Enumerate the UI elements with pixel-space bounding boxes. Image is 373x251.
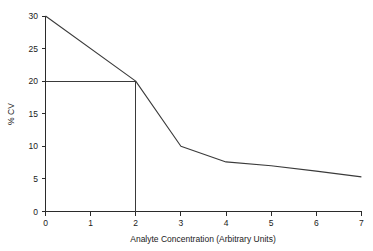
y-tick-label-25: 25 (29, 44, 39, 54)
x-tick-label-6: 6 (314, 218, 319, 228)
y-tick-label-0: 0 (33, 207, 38, 217)
y-tick-label-20: 20 (29, 76, 39, 86)
x-tick-label-7: 7 (359, 218, 364, 228)
y-axis-title: % CV (6, 103, 16, 125)
y-tick-label-15: 15 (29, 109, 39, 119)
x-tick-label-2: 2 (133, 218, 138, 228)
chart-figure: 0 5 10 15 20 25 30 0 1 2 3 4 5 6 7 Analy… (0, 0, 373, 251)
x-tick-label-5: 5 (269, 218, 274, 228)
y-tick-label-5: 5 (33, 174, 38, 184)
y-tick-label-30: 30 (29, 11, 39, 21)
chart-canvas: 0 5 10 15 20 25 30 0 1 2 3 4 5 6 7 Analy… (0, 0, 373, 251)
x-tick-label-0: 0 (43, 218, 48, 228)
x-tick-label-4: 4 (224, 218, 229, 228)
x-tick-label-1: 1 (88, 218, 93, 228)
y-tick-label-10: 10 (29, 141, 39, 151)
x-tick-label-3: 3 (179, 218, 184, 228)
chart-background (0, 0, 373, 251)
x-axis-title: Analyte Concentration (Arbitrary Units) (130, 234, 276, 244)
